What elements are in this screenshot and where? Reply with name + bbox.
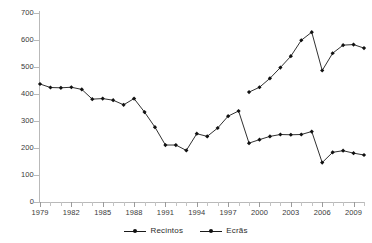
data-point-ecras-2004	[299, 38, 303, 42]
x-tick-1980	[50, 202, 51, 206]
data-point-recintos-1991	[163, 143, 167, 147]
x-axis-label-1997: 1997	[213, 209, 243, 217]
data-point-recintos-1993	[184, 148, 188, 152]
x-tick-2009	[354, 202, 355, 207]
data-point-recintos-1988	[132, 96, 136, 100]
x-tick-1986	[113, 202, 114, 206]
x-axis-label-1991: 1991	[150, 209, 180, 217]
x-axis-line	[39, 202, 365, 203]
data-point-recintos-1999	[247, 141, 251, 145]
data-point-recintos-1987	[122, 103, 126, 107]
data-point-recintos-1992	[174, 143, 178, 147]
data-point-recintos-1986	[111, 98, 115, 102]
x-tick-1994	[197, 202, 198, 207]
y-axis-label-300: 300	[0, 117, 34, 125]
x-axis-label-2006: 2006	[307, 209, 337, 217]
data-point-recintos-1984	[90, 97, 94, 101]
y-tick-0	[34, 202, 39, 203]
series-line-recintos	[40, 84, 364, 163]
data-point-recintos-1981	[59, 86, 63, 90]
data-point-recintos-2001	[268, 134, 272, 138]
x-tick-1997	[228, 202, 229, 207]
legend-item-ecras[interactable]: Ecrãs	[200, 227, 247, 235]
x-tick-1983	[82, 202, 83, 206]
x-tick-1981	[61, 202, 62, 206]
x-tick-1991	[165, 202, 166, 207]
legend-label-recintos: Recintos	[150, 227, 183, 235]
chart-legend: Recintos Ecrãs	[0, 227, 372, 235]
x-axis-label-1985: 1985	[88, 209, 118, 217]
legend-marker-ecras	[200, 227, 222, 235]
y-tick-300	[34, 121, 39, 122]
data-point-recintos-2008	[341, 149, 345, 153]
data-point-recintos-1983	[80, 87, 84, 91]
data-point-ecras-2002	[278, 65, 282, 69]
x-tick-2006	[322, 202, 323, 207]
x-tick-1984	[92, 202, 93, 206]
x-tick-1988	[134, 202, 135, 207]
x-tick-1992	[176, 202, 177, 206]
x-tick-2007	[333, 202, 334, 206]
legend-label-ecras: Ecrãs	[226, 227, 247, 235]
data-point-recintos-1996	[216, 126, 220, 130]
data-point-ecras-2005	[310, 30, 314, 34]
data-point-recintos-1998	[236, 109, 240, 113]
data-point-recintos-1994	[195, 132, 199, 136]
data-point-ecras-2008	[341, 43, 345, 47]
x-axis-label-2003: 2003	[276, 209, 306, 217]
y-axis-label-100: 100	[0, 171, 34, 179]
legend-item-recintos[interactable]: Recintos	[124, 227, 183, 235]
data-point-recintos-2009	[351, 151, 355, 155]
data-point-recintos-2006	[320, 160, 324, 164]
data-point-recintos-2000	[257, 138, 261, 142]
x-tick-2003	[291, 202, 292, 207]
x-axis-label-1994: 1994	[182, 209, 212, 217]
x-tick-1982	[71, 202, 72, 207]
data-point-ecras-2007	[331, 51, 335, 55]
data-point-ecras-2009	[351, 42, 355, 46]
data-point-recintos-2010	[362, 153, 366, 157]
x-tick-1999	[249, 202, 250, 206]
y-axis-label-400: 400	[0, 90, 34, 98]
x-axis-label-2009: 2009	[339, 209, 369, 217]
data-point-recintos-2003	[289, 133, 293, 137]
x-tick-1990	[155, 202, 156, 206]
y-axis-label-600: 600	[0, 36, 34, 44]
data-point-recintos-1985	[101, 96, 105, 100]
data-point-recintos-1982	[69, 85, 73, 89]
data-point-ecras-2001	[268, 76, 272, 80]
data-point-recintos-2005	[310, 129, 314, 133]
data-point-recintos-1980	[48, 85, 52, 89]
data-point-recintos-1989	[142, 110, 146, 114]
y-tick-100	[34, 175, 39, 176]
data-point-recintos-1990	[153, 125, 157, 129]
y-axis-label-500: 500	[0, 63, 34, 71]
data-point-ecras-2003	[289, 54, 293, 58]
x-axis-label-1988: 1988	[119, 209, 149, 217]
x-tick-2005	[312, 202, 313, 206]
data-point-recintos-2002	[278, 132, 282, 136]
x-tick-1995	[207, 202, 208, 206]
y-axis-label-0: 0	[0, 198, 34, 206]
data-point-ecras-2000	[257, 85, 261, 89]
data-point-recintos-2007	[331, 150, 335, 154]
y-axis-line	[39, 11, 40, 203]
x-tick-1989	[145, 202, 146, 206]
y-tick-400	[34, 94, 39, 95]
x-tick-1993	[186, 202, 187, 206]
x-tick-2008	[343, 202, 344, 206]
x-tick-1985	[103, 202, 104, 207]
x-tick-2010	[364, 202, 365, 206]
line-chart: 7006005004003002001000 19791982198519881…	[0, 0, 372, 243]
x-tick-1987	[124, 202, 125, 206]
x-tick-1979	[40, 202, 41, 207]
x-tick-2002	[280, 202, 281, 206]
data-point-recintos-2004	[299, 132, 303, 136]
x-tick-1998	[239, 202, 240, 206]
y-tick-700	[34, 13, 39, 14]
y-tick-600	[34, 40, 39, 41]
x-axis-label-2000: 2000	[244, 209, 274, 217]
x-axis-label-1982: 1982	[56, 209, 86, 217]
series-layer	[0, 0, 372, 243]
y-tick-500	[34, 67, 39, 68]
